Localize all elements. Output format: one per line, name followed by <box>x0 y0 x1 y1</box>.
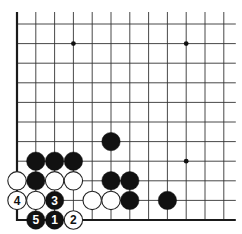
move-number-label: 5 <box>32 213 39 227</box>
white-stone[interactable]: 4 <box>8 191 26 209</box>
black-stone-circle <box>27 172 45 190</box>
black-stone[interactable] <box>45 152 63 170</box>
move-number-label: 4 <box>14 194 21 208</box>
black-stone[interactable] <box>121 172 139 190</box>
move-number-label: 1 <box>51 213 58 227</box>
black-stone-circle <box>121 191 139 209</box>
star-point-icon <box>71 41 76 46</box>
black-stone-circle <box>102 172 120 190</box>
white-stone[interactable] <box>102 191 120 209</box>
white-stone-circle <box>64 172 82 190</box>
white-stone-circle <box>102 191 120 209</box>
white-stone[interactable] <box>83 191 101 209</box>
black-stone[interactable]: 1 <box>45 211 63 229</box>
black-stone-circle <box>45 152 63 170</box>
white-stone[interactable] <box>64 172 82 190</box>
white-stone-circle <box>45 172 63 190</box>
white-stone[interactable] <box>45 172 63 190</box>
move-number-label: 3 <box>51 194 58 208</box>
black-stone[interactable] <box>64 152 82 170</box>
board-grid <box>16 12 236 221</box>
white-stone[interactable] <box>8 172 26 190</box>
white-stone[interactable]: 2 <box>64 211 82 229</box>
black-stone-circle <box>158 191 176 209</box>
black-stone[interactable] <box>102 132 120 150</box>
go-board: 43512 <box>0 0 242 234</box>
star-point-icon <box>184 159 189 164</box>
move-number-label: 2 <box>70 213 77 227</box>
white-stone-circle <box>83 191 101 209</box>
black-stone-circle <box>64 152 82 170</box>
star-point-icon <box>184 41 189 46</box>
black-stone[interactable] <box>102 172 120 190</box>
white-stone[interactable] <box>27 191 45 209</box>
black-stone-circle <box>27 152 45 170</box>
black-stone-circle <box>102 132 120 150</box>
black-stone[interactable] <box>121 191 139 209</box>
black-stone[interactable]: 5 <box>27 211 45 229</box>
white-stone-circle <box>8 172 26 190</box>
black-stone[interactable] <box>27 172 45 190</box>
black-stone[interactable] <box>27 152 45 170</box>
black-stone[interactable] <box>158 191 176 209</box>
black-stone-circle <box>121 172 139 190</box>
black-stone[interactable]: 3 <box>45 191 63 209</box>
white-stone-circle <box>27 191 45 209</box>
